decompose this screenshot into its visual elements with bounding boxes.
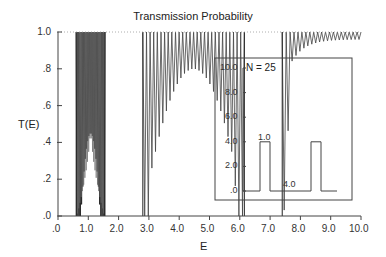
x-tick-label: 7.0	[261, 223, 275, 234]
x-tick-label: 4.0	[170, 223, 184, 234]
y-tick-label: .6	[43, 100, 51, 111]
x-tick-label: 10.0	[349, 223, 368, 234]
y-tick-label: .8	[43, 63, 51, 74]
y-tick-label: .0	[43, 210, 51, 221]
inset-n-label: N = 25	[246, 62, 276, 73]
x-tick-label: 2.0	[110, 223, 124, 234]
y-tick-label: 1.0	[37, 26, 51, 37]
x-tick-label: 8.0	[291, 223, 305, 234]
x-tick-label: 6.0	[231, 223, 245, 234]
x-tick-label: 3.0	[140, 223, 154, 234]
inset-y-tick-label: 4.0	[225, 136, 238, 146]
inset-y-tick-label: 2.0	[225, 160, 238, 170]
inset-y-tick-label: 10.0	[220, 62, 238, 72]
transmission-curve	[76, 32, 361, 216]
x-tick-label: 5.0	[201, 223, 215, 234]
y-tick-label: .2	[43, 173, 51, 184]
inset-width-label: 1.0	[258, 132, 271, 142]
x-tick-label: 1.0	[79, 223, 93, 234]
inset-spacing-label: 4.0	[283, 179, 296, 189]
x-tick-label: .0	[52, 223, 60, 234]
inset-y-tick-label: 8.0	[225, 87, 238, 97]
y-tick-label: .4	[43, 136, 51, 147]
chart-plot	[0, 0, 386, 257]
inset-y-tick-label: .0	[230, 185, 238, 195]
x-tick-label: 9.0	[322, 223, 336, 234]
inset-y-tick-label: 6.0	[225, 111, 238, 121]
